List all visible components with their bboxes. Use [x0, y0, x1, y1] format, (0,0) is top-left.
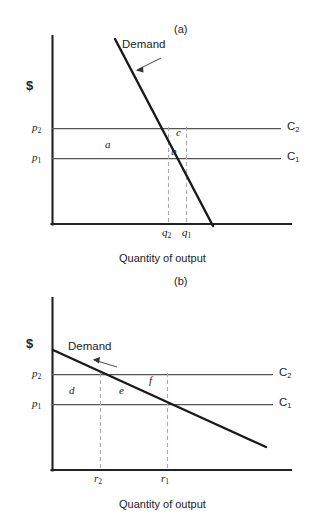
panel-b-region-label-d: d [69, 385, 75, 396]
panel-a-price-p1-base: p [32, 151, 38, 163]
panel-b-region-label-e: e [119, 385, 124, 396]
panel-a-x-axis-label: Quantity of output [119, 253, 206, 264]
panel-b-qty-label-r1: r1 [161, 473, 169, 484]
panel-b-cost-label-c2: C2 [279, 367, 291, 379]
panel-b-qty-r1-sub: 1 [165, 477, 169, 486]
panel-a-region-label-c: c [176, 127, 181, 138]
panel-a-qty-q2-base: q [162, 226, 168, 238]
panel-a-region-label-a: a [105, 139, 111, 150]
panel-a-qty-q2-sub: 2 [168, 231, 172, 240]
panel-b-tag: (b) [174, 276, 187, 287]
panel-b-qty-label-r2: r2 [94, 473, 102, 484]
panel-b-price-p1-sub: 1 [38, 402, 42, 411]
panel-a-cost-label-c1: C1 [287, 151, 299, 163]
panel-a-qty-q1-sub: 1 [188, 231, 192, 240]
panel-a-cost-label-c2: C2 [287, 121, 299, 133]
panel-b-demand-label: Demand [68, 341, 111, 353]
panel-a-qty-label-q1: q1 [182, 227, 191, 238]
panel-b-cost-c2-sub: 2 [287, 371, 291, 380]
panel-a-cost-c2-sub: 2 [295, 125, 299, 134]
panel-b-price-p2-sub: 2 [38, 372, 42, 381]
panel-a-qty-q1-base: q [182, 226, 188, 238]
panel-b-graphics [52, 298, 292, 471]
panel-a-y-axis-label: $ [26, 79, 33, 92]
panel-a-tag: (a) [174, 24, 187, 35]
panel-a-price-label-p2: p2 [32, 122, 41, 133]
panel-a-price-p1-sub: 1 [38, 156, 42, 165]
panel-b-qty-r2-sub: 2 [98, 477, 102, 486]
panel-b-y-axis-label: $ [26, 337, 33, 350]
panel-a-price-label-p1: p1 [32, 152, 41, 163]
economics-figure: (a) $ Demand p2 p1 C2 C1 a b c q2 q1 Qua… [0, 0, 327, 523]
panel-b-cost-label-c1: C1 [279, 397, 291, 409]
panel-a-demand-curve [115, 39, 213, 226]
panel-b-price-label-p2: p2 [32, 368, 41, 379]
panel-b-region-label-f: f [149, 375, 152, 386]
panel-b-demand-curve [53, 350, 266, 447]
panel-a-cost-c1-sub: 1 [295, 155, 299, 164]
panel-a-price-p2-sub: 2 [38, 126, 42, 135]
panel-a-region-label-b: b [171, 146, 177, 157]
panel-a-price-p2-base: p [32, 121, 38, 133]
panel-b-cost-c1-sub: 1 [287, 401, 291, 410]
panel-a-graphics [52, 36, 292, 226]
panel-a-qty-label-q2: q2 [162, 227, 171, 238]
panel-b-price-label-p1: p1 [32, 398, 41, 409]
panel-b-price-p1-base: p [32, 397, 38, 409]
panel-b-x-axis-label: Quantity of output [119, 499, 206, 510]
panel-a-demand-label: Demand [122, 39, 165, 51]
panel-b-price-p2-base: p [32, 367, 38, 379]
